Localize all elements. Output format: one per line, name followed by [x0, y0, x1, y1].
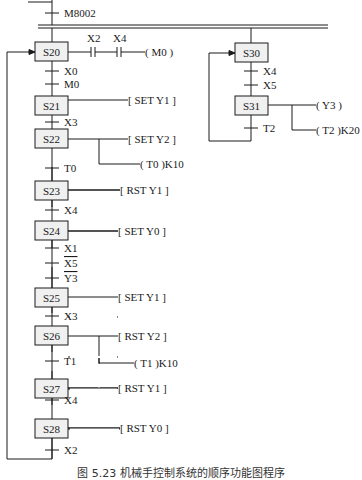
action-coil-y3: ( Y3 )	[316, 99, 342, 112]
transition-label: M0	[64, 78, 80, 90]
step-label: S23	[43, 185, 61, 197]
action-rst-y2: [ RST Y2 ]	[118, 330, 167, 342]
figure-caption: 图 5.23 机械手控制系统的顺序功能图程序	[0, 464, 362, 480]
transition-label: X0	[64, 65, 78, 77]
transition-label: X4	[263, 65, 277, 77]
action-timer-t0: ( T0 )K10	[140, 158, 184, 171]
transition-label-negated: X5	[64, 257, 78, 269]
transition-label: X3	[64, 310, 78, 322]
transition-label: X4	[64, 394, 78, 406]
transition-label: T1	[64, 355, 76, 367]
contact-label-x4: X4	[113, 32, 127, 44]
transition-label: M8002	[64, 7, 96, 19]
transition-label: T2	[263, 122, 275, 134]
action-rst-y0: [ RST Y0 ]	[120, 422, 169, 434]
action-set-y0: [ SET Y0 ]	[118, 225, 166, 237]
step-label: S28	[43, 423, 61, 435]
arrow-icon	[229, 51, 235, 56]
contact-label-x2: X2	[87, 32, 100, 44]
step-label: S30	[243, 47, 261, 59]
step-label: S31	[243, 100, 260, 112]
arrow-icon	[29, 50, 35, 55]
action-timer-t1: ( T1 )K10	[134, 357, 178, 370]
step-label: S20	[43, 46, 61, 58]
transition-label: X3	[64, 116, 78, 128]
step-label: S24	[43, 225, 61, 237]
step-label: S25	[43, 292, 61, 304]
step-label: S26	[43, 330, 61, 342]
step-label: S27	[43, 383, 61, 395]
step-label: S22	[43, 133, 60, 145]
transition-label: X5	[263, 79, 277, 91]
action-timer-t2: ( T2 )K20	[316, 124, 360, 137]
transition-label: X1	[64, 242, 77, 254]
action-set-y1: [ SET Y1 ]	[118, 291, 166, 303]
action-coil-m0: ( M0 )	[145, 46, 173, 59]
transition-label-negated: Y3	[64, 272, 78, 284]
action-set-y1: [ SET Y1 ]	[128, 94, 176, 106]
transition-label: X4	[64, 204, 78, 216]
transition-label: X2	[64, 444, 77, 456]
step-label: S21	[43, 100, 60, 112]
action-rst-y1: [ RST Y1 ]	[118, 382, 167, 394]
action-rst-y1: [ RST Y1 ]	[120, 184, 169, 196]
action-set-y2: [ SET Y2 ]	[128, 133, 176, 145]
transition-label: T0	[64, 162, 77, 174]
